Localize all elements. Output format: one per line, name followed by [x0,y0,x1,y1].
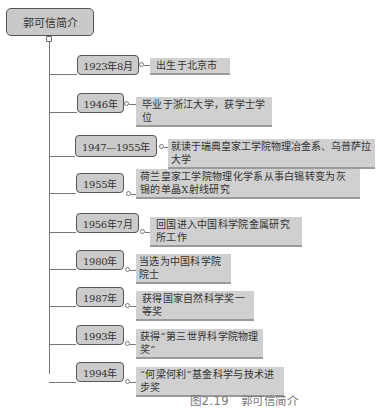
event-text: 当选为中国科学院院士 [139,256,221,280]
event-text: 毕业于浙江大学，获学士学位 [142,99,266,123]
year-node-1947-1955: 1947—1955年 [75,135,157,157]
year-text: 1923年8月 [83,58,133,73]
branch-line [49,306,76,307]
branch-line [49,269,76,270]
year-node-1923: 1923年8月 [77,55,139,75]
year-text: 1955年 [83,176,117,191]
event-label: 获得“第三世界科学院物理奖” [136,329,263,359]
figure-caption: 图2.19 郭可信简介 [190,392,298,408]
year-text: 1980年 [83,253,117,268]
event-text: “何梁何利”基金科学与技术进步奖 [140,369,274,393]
year-node-1987: 1987年 [76,287,124,307]
event-text: 回国进入中国科学院金属研究所工作 [156,219,290,243]
event-label: 荷兰皇家工学院物理化学系从事白锡转变为灰锡的单晶X射线研究 [136,169,360,199]
year-text: 1993年 [83,328,117,343]
event-text: 获得“第三世界科学院物理奖” [140,331,259,355]
event-text: 荷兰皇家工学院物理化学系从事白锡转变为灰锡的单晶X射线研究 [140,171,346,195]
connector [129,104,136,105]
year-text: 1947—1955年 [82,139,150,154]
year-node-1993: 1993年 [76,325,124,345]
year-node-1980: 1980年 [76,250,124,270]
year-node-1955: 1955年 [76,173,124,193]
year-node-1994: 1994年 [76,362,124,382]
branch-line [49,156,75,157]
event-text: 出生于北京市 [156,60,218,71]
year-text: 1994年 [83,365,117,380]
event-label: 回国进入中国科学院金属研究所工作 [150,217,302,247]
branch-line [49,382,76,383]
year-text: 1987年 [83,290,117,305]
root-title: 郭可信简介 [23,14,78,30]
event-label: 毕业于浙江大学，获学士学位 [136,97,272,127]
year-text: 1956年7月 [83,216,133,231]
year-text: 1946年 [84,96,118,111]
branch-line [49,232,76,233]
event-label: 获得国家自然科学奖一等奖 [136,291,254,321]
branch-line [49,74,77,75]
year-node-1946: 1946年 [77,93,124,113]
year-node-1956: 1956年7月 [76,213,139,233]
branch-line [49,344,76,345]
event-label: 就读于瑞典皇家工学院物理冶金系、乌普萨拉大学 [168,139,375,169]
event-label: 出生于北京市 [150,58,230,75]
event-label: 当选为中国科学院院士 [136,254,231,284]
root-node: 郭可信简介 [6,8,94,36]
event-text: 获得国家自然科学奖一等奖 [142,293,245,317]
branch-line [49,112,77,113]
event-text: 就读于瑞典皇家工学院物理冶金系、乌普萨拉大学 [171,141,371,165]
timeline-spine [49,42,50,374]
branch-line [49,193,76,194]
